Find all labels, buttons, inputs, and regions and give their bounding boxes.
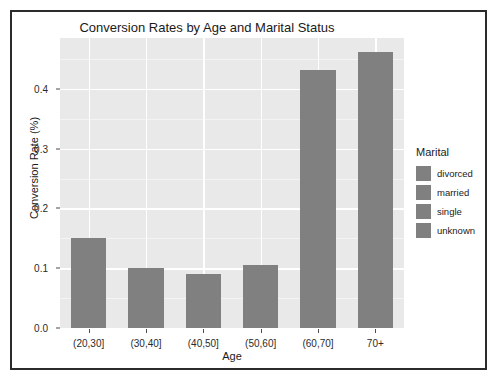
- x-tick-label: (60,70]: [302, 338, 333, 349]
- y-tick-mark: [56, 148, 60, 149]
- x-tick-label: (50,60]: [245, 338, 276, 349]
- y-tick-mark: [56, 328, 60, 329]
- bar: [243, 265, 279, 328]
- gridline-minor: [60, 238, 404, 239]
- gridline-minor: [60, 298, 404, 299]
- gridline-minor: [60, 119, 404, 120]
- legend-label: married: [437, 187, 469, 198]
- x-axis-title: Age: [60, 350, 404, 362]
- y-tick-label: 0.2: [18, 203, 48, 214]
- y-axis-title: Conversion Rate (%): [28, 98, 40, 238]
- legend-title: Marital: [416, 146, 498, 158]
- gridline-minor: [60, 59, 404, 60]
- gridline-minor: [60, 179, 404, 180]
- x-tick-mark: [203, 329, 204, 333]
- x-tick-mark: [375, 329, 376, 333]
- x-tick-label: (20,30]: [73, 338, 104, 349]
- chart-plot-area: Conversion Rates by Age and Marital Stat…: [12, 12, 485, 368]
- legend-item[interactable]: single: [416, 202, 498, 221]
- legend-items: divorcedmarriedsingleunknown: [416, 164, 498, 240]
- y-tick-mark: [56, 208, 60, 209]
- gridline-major: [60, 149, 404, 150]
- legend-item[interactable]: married: [416, 183, 498, 202]
- gridline-major: [60, 208, 404, 209]
- legend-swatch: [416, 166, 431, 181]
- legend-label: divorced: [437, 168, 473, 179]
- legend-item[interactable]: unknown: [416, 221, 498, 240]
- legend: Marital divorcedmarriedsingleunknown: [416, 146, 498, 240]
- y-tick-label: 0.0: [18, 323, 48, 334]
- bar: [128, 268, 164, 328]
- bar: [358, 52, 394, 328]
- x-tick-mark: [261, 329, 262, 333]
- y-tick-label: 0.3: [18, 143, 48, 154]
- x-tick-mark: [318, 329, 319, 333]
- x-tick-label: 70+: [367, 338, 384, 349]
- legend-label: single: [437, 206, 462, 217]
- legend-label: unknown: [437, 225, 475, 236]
- legend-swatch: [416, 185, 431, 200]
- x-tick-label: (40,50]: [188, 338, 219, 349]
- legend-item[interactable]: divorced: [416, 164, 498, 183]
- bar: [186, 274, 222, 328]
- bar: [71, 238, 107, 328]
- y-tick-mark: [56, 268, 60, 269]
- x-tick-label: (30,40]: [130, 338, 161, 349]
- chart-title: Conversion Rates by Age and Marital Stat…: [12, 20, 402, 35]
- y-tick-label: 0.4: [18, 83, 48, 94]
- gridline-major: [60, 89, 404, 90]
- figure-frame: Conversion Rates by Age and Marital Stat…: [10, 10, 487, 370]
- legend-swatch: [416, 223, 431, 238]
- x-tick-mark: [146, 329, 147, 333]
- plot-panel: [60, 38, 404, 328]
- legend-swatch: [416, 204, 431, 219]
- bar: [300, 70, 336, 328]
- y-tick-mark: [56, 88, 60, 89]
- gridline-major: [60, 268, 404, 269]
- x-tick-mark: [89, 329, 90, 333]
- y-tick-label: 0.1: [18, 263, 48, 274]
